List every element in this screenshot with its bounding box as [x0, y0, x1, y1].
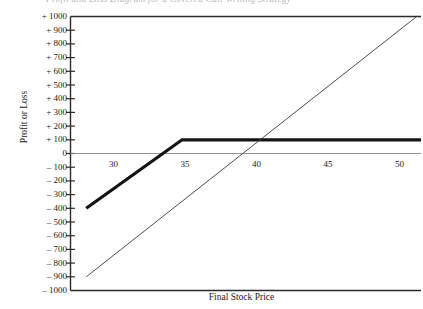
- x-axis-tick-label: 30: [100, 160, 126, 169]
- y-axis-tick-label: – 500: [15, 218, 67, 227]
- y-axis-tick-label: + 300: [15, 108, 67, 117]
- x-axis-tick-label: 50: [387, 160, 413, 169]
- y-axis-tick-label: – 800: [15, 259, 67, 268]
- x-axis-title: Final Stock Price: [60, 292, 423, 302]
- x-axis-tick-label: 35: [172, 160, 198, 169]
- chart-container: Profit and Loss Diagram for a Covered Ca…: [0, 0, 423, 309]
- y-axis-tick-label: + 1000: [15, 12, 67, 21]
- y-axis-tick-label: – 400: [15, 204, 67, 213]
- y-axis-tick-label: + 400: [15, 94, 67, 103]
- y-axis-tick-label: + 100: [15, 135, 67, 144]
- y-axis-tick-label: – 900: [15, 272, 67, 281]
- y-axis-tick-label: + 200: [15, 122, 67, 131]
- x-axis-tick-label: 40: [243, 160, 269, 169]
- y-axis-tick-label: – 600: [15, 231, 67, 240]
- y-axis-tick-label: – 200: [15, 176, 67, 185]
- y-axis-tick-label-group: + 1000+ 900+ 800+ 700+ 600+ 500+ 400+ 30…: [0, 0, 67, 309]
- data-series-2: [86, 17, 416, 277]
- y-axis-tick-label: – 100: [15, 163, 67, 172]
- x-axis-tick-label: 45: [315, 160, 341, 169]
- y-axis-tick-label: – 1000: [15, 286, 67, 295]
- y-axis-tick-label: + 900: [15, 26, 67, 35]
- y-axis-tick-label: + 700: [15, 53, 67, 62]
- y-axis-tick-label: + 800: [15, 39, 67, 48]
- y-axis-tick-label: 0: [15, 149, 67, 158]
- y-axis-tick-label: + 600: [15, 67, 67, 76]
- y-axis-tick-label: – 300: [15, 190, 67, 199]
- y-axis-tick-label: + 500: [15, 81, 67, 90]
- data-series-1: [86, 140, 421, 209]
- y-axis-tick-label: – 700: [15, 245, 67, 254]
